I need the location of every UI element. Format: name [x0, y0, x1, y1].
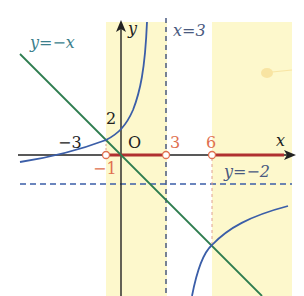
x-axis-label: x — [276, 131, 285, 150]
open-point-x3 — [163, 152, 170, 159]
asymptote-x3-label: x=3 — [173, 21, 206, 40]
y-intercept-label: 2 — [106, 109, 116, 128]
graph-svg: y x O y=−x x=3 y=−2 2 −3 −1 3 6 — [0, 0, 304, 296]
origin-label: O — [128, 133, 141, 152]
point-label-neg1: −1 — [93, 159, 117, 178]
point-label-6: 6 — [206, 133, 216, 152]
point-label-3: 3 — [170, 133, 180, 152]
y-axis-label: y — [127, 19, 138, 38]
asymptote-y-2-label: y=−2 — [223, 162, 270, 181]
shade-region-right — [212, 22, 292, 296]
graph-figure: y x O y=−x x=3 y=−2 2 −3 −1 3 6 — [0, 0, 304, 296]
open-point-x-1 — [103, 152, 110, 159]
open-point-x6 — [209, 152, 216, 159]
x-intercept-label: −3 — [58, 133, 82, 152]
line-label: y=−x — [29, 33, 75, 52]
